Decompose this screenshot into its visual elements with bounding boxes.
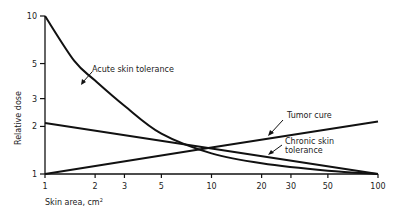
series-acute-skin-tolerance [45,16,378,174]
x-tick-label: 5 [159,182,164,191]
curves [45,16,378,174]
axes: 123510203050100123510 [27,12,386,191]
annotation-acute-skin-tolerance: Acute skin tolerance [92,65,174,74]
x-tick-label: 100 [370,182,385,191]
arrow-icon [271,120,283,133]
annotation-chronic-skin-tolerance-line2: tolerance [285,146,323,155]
annotation-chronic-skin-tolerance-line1: Chronic skin [285,137,334,146]
x-tick-label: 1 [42,182,47,191]
x-tick-label: 20 [257,182,267,191]
y-axis-title: Relative dose [14,91,23,145]
y-tick-label: 2 [32,122,37,131]
annotation-tumor-cure: Tumor cure [286,111,332,120]
y-tick-label: 3 [32,95,37,104]
x-tick-label: 3 [122,182,127,191]
arrowhead-icon [268,150,274,155]
y-tick-label: 1 [32,170,37,179]
x-tick-label: 10 [206,182,216,191]
y-tick-label: 10 [27,12,37,21]
x-axis-title: Skin area, cm2 [45,197,103,207]
x-tick-label: 30 [286,182,296,191]
x-tick-label: 2 [93,182,98,191]
chart: 123510203050100123510 Acute skin toleran… [0,0,400,213]
y-tick-label: 5 [32,60,37,69]
x-tick-label: 50 [323,182,333,191]
